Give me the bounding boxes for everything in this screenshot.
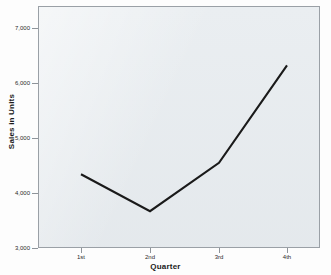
x-axis-title: Quarter [0, 262, 331, 271]
x-tick-label: 2nd [145, 254, 155, 260]
x-tick-mark [150, 248, 151, 253]
y-tick-mark [32, 193, 38, 194]
y-tick-mark [32, 28, 38, 29]
y-axis-title: Sales in Units [7, 57, 16, 187]
x-tick-label: 1st [77, 254, 85, 260]
y-tick-mark [32, 248, 38, 249]
y-tick-label: 3,000 [0, 245, 30, 251]
series-line-sales [81, 65, 287, 211]
line-chart: 7,0006,0005,0004,0003,000 1st2nd3rd4th Q… [0, 0, 331, 275]
x-tick-label: 3rd [215, 254, 224, 260]
y-tick-mark [32, 138, 38, 139]
x-tick-mark [81, 248, 82, 253]
y-tick-label: 4,000 [0, 190, 30, 196]
x-tick-mark [287, 248, 288, 253]
x-tick-label: 4th [283, 254, 291, 260]
series-layer [38, 6, 320, 248]
y-tick-mark [32, 83, 38, 84]
x-tick-mark [219, 248, 220, 253]
y-tick-label: 7,000 [0, 25, 30, 31]
